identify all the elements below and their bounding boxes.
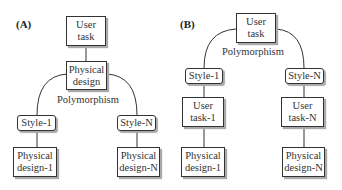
physical-design-box: Physical design bbox=[66, 61, 107, 90]
style-1-box: Style-1 bbox=[185, 68, 223, 84]
polymorphism-label: Polymorphism bbox=[222, 46, 284, 57]
physical-design-n-box: Physical design-N bbox=[282, 147, 325, 177]
physical-design-1-box: Physical design-1 bbox=[181, 147, 225, 177]
user-task-1-box: User task-1 bbox=[182, 97, 224, 127]
user-task-n-box: User task-N bbox=[281, 97, 324, 127]
user-task-box: User task bbox=[66, 16, 106, 46]
physical-design-1-box: Physical design-1 bbox=[13, 147, 57, 177]
polymorphism-label: Polymorphism bbox=[57, 94, 119, 105]
style-1-box: Style-1 bbox=[17, 115, 56, 131]
panel-a-label: (A) bbox=[16, 18, 31, 30]
physical-design-n-box: Physical design-N bbox=[117, 147, 160, 177]
user-task-box: User task bbox=[236, 13, 276, 43]
style-n-box: Style-N bbox=[117, 115, 156, 131]
style-n-box: Style-N bbox=[285, 68, 324, 84]
panel-b-label: (B) bbox=[180, 18, 195, 30]
